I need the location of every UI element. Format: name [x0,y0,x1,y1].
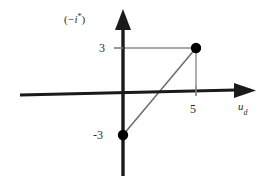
y-axis-arrowhead [115,9,131,30]
plot-canvas [0,0,270,183]
data-point-lower [118,130,128,140]
x-axis-arrowhead [234,83,256,98]
x-axis-line [20,90,236,95]
data-point-upper [191,43,201,53]
figure-container: (−i*) ud 3 -3 5 [0,0,270,183]
